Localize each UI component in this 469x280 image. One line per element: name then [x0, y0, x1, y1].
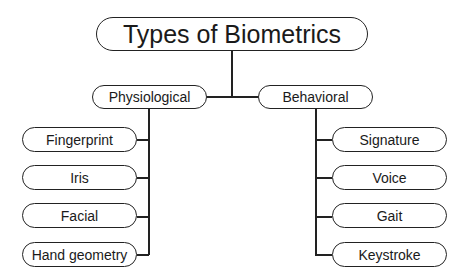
leaf-node-iris: Iris	[22, 165, 137, 190]
diagram-title-node: Types of Biometrics	[96, 17, 368, 51]
leaf-node-hand-geometry: Hand geometry	[22, 242, 137, 267]
leaf-node-signature: Signature	[332, 127, 447, 152]
connector-title-to-categories	[231, 51, 233, 97]
leaf-node-keystroke: Keystroke	[332, 242, 447, 267]
diagram-title: Types of Biometrics	[123, 20, 341, 49]
connector-signature	[315, 139, 332, 141]
connector-behavioral-trunk	[315, 108, 317, 255]
connector-gait	[315, 216, 332, 218]
connector-keystroke	[315, 254, 332, 256]
connector-facial	[137, 216, 149, 218]
category-label: Behavioral	[282, 89, 348, 105]
connector-hand-geometry	[137, 254, 149, 256]
connector-voice	[315, 177, 332, 179]
leaf-label: Facial	[61, 208, 98, 224]
connector-categories-horizontal	[207, 96, 258, 98]
leaf-label: Voice	[372, 170, 406, 186]
connector-iris	[137, 177, 149, 179]
connector-physiological-trunk	[148, 108, 150, 255]
category-node-physiological: Physiological	[92, 85, 207, 109]
leaf-node-facial: Facial	[22, 203, 137, 228]
leaf-label: Keystroke	[358, 247, 420, 263]
leaf-label: Fingerprint	[46, 132, 113, 148]
leaf-node-fingerprint: Fingerprint	[22, 127, 137, 152]
leaf-label: Hand geometry	[32, 247, 128, 263]
connector-fingerprint	[137, 139, 149, 141]
category-label: Physiological	[109, 89, 191, 105]
leaf-node-voice: Voice	[332, 165, 447, 190]
leaf-node-gait: Gait	[332, 203, 447, 228]
leaf-label: Signature	[360, 132, 420, 148]
leaf-label: Iris	[70, 170, 89, 186]
leaf-label: Gait	[377, 208, 403, 224]
category-node-behavioral: Behavioral	[258, 85, 373, 109]
